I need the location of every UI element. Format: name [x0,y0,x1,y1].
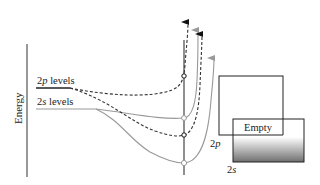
empty-label: Empty [244,122,273,133]
band-2s-label: 2s [227,164,236,175]
level-2s-label: 2s levels [37,96,73,107]
band-2p-label: 2p [210,138,221,149]
point-2s-upper [182,116,187,121]
energy-axis-label: Energy [12,92,24,124]
level-2p-label: 2p levels [37,75,75,86]
point-2s-lower [181,160,186,165]
point-2p-upper [182,74,186,78]
energy-band-diagram: Energy 2p levels 2s levels [0,0,320,185]
2s-curves [96,30,214,163]
point-2p-lower [182,133,186,137]
energy-axis: Energy [12,44,27,177]
level-2p: 2p levels [36,75,75,88]
band-2s: Empty 2s [227,119,304,175]
level-2s: 2s levels [36,96,96,109]
